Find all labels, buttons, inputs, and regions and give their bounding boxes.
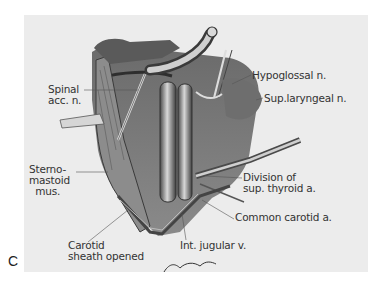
label-carotid-sheath-opened: Carotid sheath opened [68, 240, 144, 262]
panel-letter: C [8, 253, 18, 269]
label-hypoglossal-n: Hypoglossal n. [252, 70, 326, 81]
label-division-sup-thyroid-a: Division of sup. thyroid a. [243, 172, 316, 194]
label-sternomastoid-mus: Sterno- mastoid mus. [29, 164, 70, 197]
label-spinal-acc-n: Spinal acc. n. [48, 84, 81, 106]
label-int-jugular-v: Int. jugular v. [180, 240, 246, 251]
label-common-carotid-a: Common carotid a. [235, 212, 332, 223]
label-sup-laryngeal-n: Sup.laryngeal n. [264, 93, 346, 104]
common-carotid-artery [160, 82, 176, 202]
internal-jugular-vein [178, 84, 192, 200]
artist-signature [164, 262, 216, 272]
